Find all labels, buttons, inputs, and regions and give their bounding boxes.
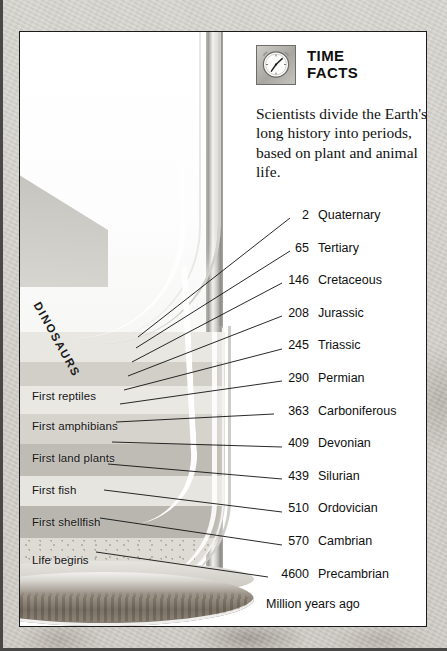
hourglass-illustration: DINOSAURS First reptilesFirst amphibians… <box>20 32 270 626</box>
period-mya: 4600 <box>281 567 309 581</box>
period-mya: 146 <box>288 273 309 287</box>
intro-paragraph: Scientists divide the Earth's long histo… <box>256 104 427 182</box>
page-left-rule <box>0 0 3 651</box>
period-name: Ordovician <box>318 501 378 515</box>
period-row: 409Devonian <box>256 436 427 469</box>
era-label: First shellfish <box>32 516 101 528</box>
era-label: Life begins <box>32 554 89 566</box>
page-background: DINOSAURS First reptilesFirst amphibians… <box>0 0 447 651</box>
era-label: First fish <box>32 484 76 496</box>
period-mya: 290 <box>288 371 309 385</box>
period-list: 2Quaternary65Tertiary146Cretaceous208Jur… <box>256 208 427 599</box>
period-mya: 570 <box>288 534 309 548</box>
period-row: 65Tertiary <box>256 241 427 274</box>
period-name: Cambrian <box>318 534 372 548</box>
period-row: 363Carboniferous <box>256 404 427 437</box>
period-row: 4600Precambrian <box>256 567 427 600</box>
period-name: Cretaceous <box>318 273 382 287</box>
period-name: Jurassic <box>318 306 364 320</box>
period-row: 510Ordovician <box>256 501 427 534</box>
period-name: Silurian <box>318 469 360 483</box>
period-name: Quaternary <box>318 208 381 222</box>
period-name: Tertiary <box>318 241 359 255</box>
period-name: Permian <box>318 371 365 385</box>
era-label: First amphibians <box>32 420 118 432</box>
period-name: Triassic <box>318 338 361 352</box>
units-footnote: Million years ago <box>266 597 360 611</box>
period-row: 208Jurassic <box>256 306 427 339</box>
period-name: Devonian <box>318 436 371 450</box>
period-mya: 409 <box>288 436 309 450</box>
clock-icon <box>256 45 296 85</box>
period-row: 439Silurian <box>256 469 427 502</box>
period-mya: 2 <box>302 208 309 222</box>
title-line-2: FACTS <box>307 65 358 82</box>
period-mya: 363 <box>288 404 309 418</box>
period-row: 245Triassic <box>256 338 427 371</box>
period-mya: 208 <box>288 306 309 320</box>
period-mya: 245 <box>288 338 309 352</box>
time-facts-title: TIME FACTS <box>307 48 358 82</box>
period-mya: 65 <box>295 241 309 255</box>
period-row: 146Cretaceous <box>256 273 427 306</box>
era-label: First land plants <box>32 452 115 464</box>
period-name: Carboniferous <box>318 404 397 418</box>
period-mya: 510 <box>288 501 309 515</box>
period-row: 570Cambrian <box>256 534 427 567</box>
time-facts-header: TIME FACTS <box>256 45 358 85</box>
sand-band <box>20 362 225 386</box>
content-panel: DINOSAURS First reptilesFirst amphibians… <box>19 31 427 627</box>
era-label: First reptiles <box>32 390 96 402</box>
period-name: Precambrian <box>318 567 389 581</box>
period-row: 290Permian <box>256 371 427 404</box>
period-mya: 439 <box>288 469 309 483</box>
title-line-1: TIME <box>307 48 358 65</box>
period-row: 2Quaternary <box>256 208 427 241</box>
